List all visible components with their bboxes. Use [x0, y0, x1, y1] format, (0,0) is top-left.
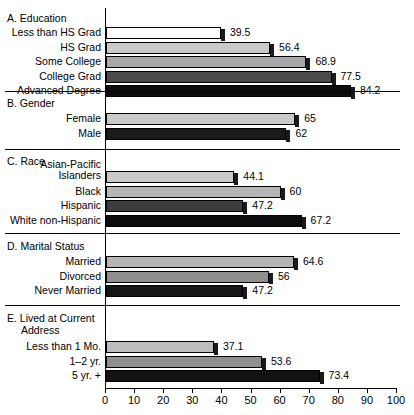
bar [106, 27, 221, 39]
section-title-d: D. Marital Status [7, 240, 85, 252]
bar-end-cap [320, 372, 324, 384]
bar-wrapper [106, 113, 301, 125]
category-label: HS Grad [0, 42, 101, 53]
section-title-b: B. Gender [7, 97, 55, 109]
bar-value-label: 60 [289, 185, 303, 197]
bar-end-cap [262, 358, 266, 370]
x-axis-tick-label: 80 [332, 394, 344, 407]
section-divider [5, 91, 400, 92]
x-axis-tick [396, 388, 397, 393]
bar-row: 5 yr. +73.4 [0, 369, 414, 383]
bar-row: HS Grad56.4 [0, 41, 414, 55]
bar [106, 186, 281, 198]
bar-end-cap [332, 73, 336, 85]
bar-end-cap [286, 130, 290, 142]
category-label: Married [0, 256, 101, 267]
bar-row: Less than 1 Mo.37.1 [0, 340, 414, 354]
bar [106, 285, 243, 297]
bar-row: Hispanic47.2 [0, 199, 414, 213]
bar-end-cap [295, 115, 299, 127]
section-divider [5, 149, 400, 150]
category-label: Black [0, 186, 101, 197]
bar-end-cap [234, 173, 238, 185]
bar-value-label: 65 [303, 112, 317, 124]
bar [106, 71, 332, 83]
bar-end-cap [221, 29, 225, 41]
category-label: Less than 1 Mo. [0, 341, 101, 352]
x-axis-tick-label: 10 [128, 394, 140, 407]
category-label: College Grad [0, 71, 101, 82]
category-label: Hispanic [0, 200, 101, 211]
bar-wrapper [106, 200, 249, 212]
bar-end-cap [302, 217, 306, 229]
bar-wrapper [106, 215, 308, 227]
bar-row: Asian-Pacific Islanders44.1 [0, 170, 414, 184]
bar-end-cap [269, 273, 273, 285]
x-axis-tick-label: 50 [244, 394, 256, 407]
bar-wrapper [106, 186, 287, 198]
bar-wrapper [106, 27, 227, 39]
bar-value-label: 56.4 [278, 41, 300, 53]
bar-wrapper [106, 370, 326, 382]
bar-value-label: 77.5 [340, 70, 362, 82]
x-axis-tick [367, 388, 368, 393]
x-axis-tick-label: 90 [361, 394, 373, 407]
bar-value-label: 56 [277, 270, 291, 282]
x-axis-tick-label: 0 [102, 394, 108, 407]
bar-value-label: 64.6 [302, 255, 324, 267]
x-axis-tick [192, 388, 193, 393]
plot-area: A. EducationLess than HS Grad39.5HS Grad… [0, 0, 414, 415]
x-axis-tick-label: 40 [215, 394, 227, 407]
x-axis-tick [163, 388, 164, 393]
x-axis-tick-label: 70 [303, 394, 315, 407]
bar [106, 171, 234, 183]
bar-value-label: 39.5 [229, 26, 251, 38]
bar-row: College Grad77.5 [0, 70, 414, 84]
category-label: Less than HS Grad [0, 27, 101, 38]
x-axis-tick [134, 388, 135, 393]
category-label: Divorced [0, 271, 101, 282]
x-axis-tick-label: 20 [157, 394, 169, 407]
bar-value-label: 53.6 [270, 355, 292, 367]
bar-wrapper [106, 271, 275, 283]
bar-wrapper [106, 71, 338, 83]
bar-wrapper [106, 341, 220, 353]
bar-value-label: 47.2 [251, 284, 273, 296]
bar [106, 200, 243, 212]
bar-end-cap [270, 44, 274, 56]
bar-value-label: 68.9 [314, 55, 336, 67]
x-axis-tick [105, 388, 106, 393]
bar [106, 356, 262, 368]
bar [106, 128, 286, 140]
bar-value-label: 47.2 [251, 199, 273, 211]
bar-end-cap [351, 87, 355, 99]
bar-row: Male62 [0, 127, 414, 141]
bar-row: Married64.6 [0, 255, 414, 269]
x-axis-tick [338, 388, 339, 393]
category-label: White non-Hispanic [0, 215, 101, 226]
bar [106, 370, 320, 382]
x-axis-tick-label: 100 [387, 394, 405, 407]
bar-wrapper [106, 356, 268, 368]
bar-value-label: 67.2 [310, 214, 332, 226]
x-axis-tick-label: 30 [186, 394, 198, 407]
bar-value-label: 62 [294, 127, 308, 139]
section-divider [5, 305, 400, 306]
bar [106, 113, 295, 125]
bar-row: Less than HS Grad39.5 [0, 26, 414, 40]
x-axis-tick [221, 388, 222, 393]
category-label: Female [0, 113, 101, 124]
section-divider [5, 233, 400, 234]
bar-end-cap [306, 58, 310, 70]
bar-wrapper [106, 256, 300, 268]
bar [106, 42, 270, 54]
category-label: Never Married [0, 285, 101, 296]
bar [106, 56, 306, 68]
bar-wrapper [106, 56, 312, 68]
category-label: 1–2 yr. [0, 356, 101, 367]
grouped-bar-chart: A. EducationLess than HS Grad39.5HS Grad… [0, 0, 414, 415]
bar-wrapper [106, 128, 292, 140]
category-label: 5 yr. + [0, 370, 101, 381]
bar-value-label: 37.1 [222, 340, 244, 352]
x-axis-tick [280, 388, 281, 393]
